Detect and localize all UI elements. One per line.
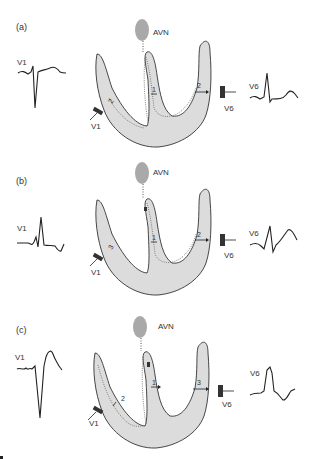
ecg-v6-label: V6 bbox=[249, 82, 259, 91]
panel-b: (b) 1 2 3 AVN V1 V1 V6 V6 bbox=[0, 150, 313, 305]
v1-electrode-label: V1 bbox=[89, 419, 99, 428]
avn-node bbox=[135, 162, 149, 184]
heart-diagram: 1 2 2 bbox=[0, 0, 313, 150]
avn-label: AVN bbox=[153, 28, 169, 37]
ecg-v1-label: V1 bbox=[15, 353, 25, 362]
panel-a: (a) 1 2 2 AVN V1 V1 V6 V6 bbox=[0, 0, 313, 150]
panel-c: (c) 1 3 2 AVN V1 V1 V6 V6 bbox=[0, 305, 313, 459]
ecg-v6-label: V6 bbox=[249, 229, 259, 238]
ecg-v1-trace bbox=[17, 217, 64, 251]
avn-label: AVN bbox=[158, 322, 174, 331]
avn-label: AVN bbox=[153, 168, 169, 177]
heart-diagram: 1 3 2 bbox=[0, 305, 313, 459]
ventricle-shape bbox=[94, 342, 209, 448]
v6-electrode bbox=[220, 234, 225, 246]
avn-node bbox=[135, 19, 149, 41]
v1-electrode bbox=[93, 107, 104, 115]
svg-text:2: 2 bbox=[197, 231, 201, 238]
svg-text:2: 2 bbox=[121, 395, 125, 402]
svg-text:1: 1 bbox=[152, 234, 156, 241]
v1-electrode-label: V1 bbox=[91, 268, 101, 277]
avn-node bbox=[133, 316, 147, 338]
svg-text:3: 3 bbox=[197, 379, 201, 386]
svg-text:2: 2 bbox=[197, 82, 201, 89]
v1-electrode bbox=[93, 253, 104, 261]
v6-electrode-label: V6 bbox=[224, 104, 234, 113]
svg-text:1: 1 bbox=[152, 379, 156, 386]
ecg-v1-label: V1 bbox=[17, 224, 27, 233]
v6-electrode bbox=[218, 385, 223, 397]
v1-electrode-label: V1 bbox=[91, 122, 101, 131]
ecg-v1-label: V1 bbox=[17, 58, 27, 67]
ecg-v1-trace bbox=[18, 66, 66, 108]
ecg-v6-label: V6 bbox=[250, 369, 260, 378]
v6-electrode bbox=[220, 86, 225, 98]
v6-electrode-label: V6 bbox=[222, 400, 232, 409]
svg-text:1: 1 bbox=[152, 86, 156, 93]
v6-electrode-label: V6 bbox=[224, 251, 234, 260]
